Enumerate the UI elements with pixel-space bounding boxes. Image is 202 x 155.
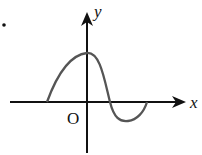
bullet-dot — [2, 23, 6, 27]
origin-label: O — [67, 109, 79, 128]
function-curve — [47, 53, 147, 121]
function-graph: y x O — [0, 0, 202, 155]
y-axis-label: y — [92, 2, 102, 21]
x-axis-label: x — [189, 93, 198, 112]
